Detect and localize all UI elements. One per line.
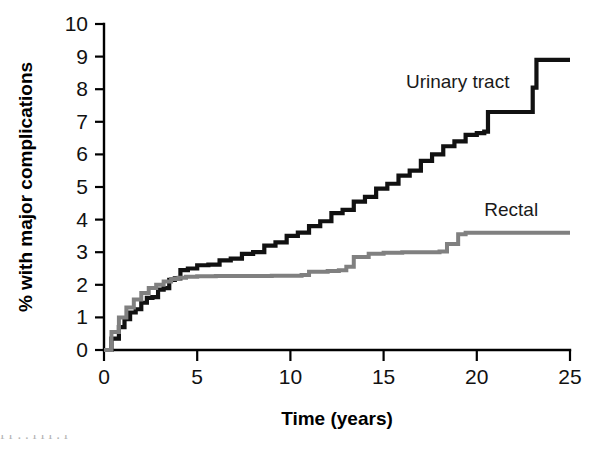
chart-background <box>0 0 607 449</box>
y-tick-label: 5 <box>76 175 88 198</box>
chart-figure: 012345678910 0510152025 % with major com… <box>0 0 607 449</box>
series-label-rectal: Rectal <box>484 199 538 220</box>
y-tick-label: 6 <box>76 142 88 165</box>
x-tick-label: 20 <box>465 365 488 388</box>
x-axis-title: Time (years) <box>281 408 393 429</box>
series-label-urinary-tract: Urinary tract <box>406 71 510 92</box>
x-tick-label: 5 <box>191 365 203 388</box>
y-tick-label: 3 <box>76 240 88 263</box>
y-tick-label: 9 <box>76 45 88 68</box>
scan-artifact-text: f r . . l l l . l <box>0 435 68 443</box>
y-tick-label: 2 <box>76 273 88 296</box>
y-tick-label: 4 <box>76 208 88 231</box>
y-tick-label: 1 <box>76 305 88 328</box>
y-tick-label: 8 <box>76 77 88 100</box>
x-tick-label: 0 <box>98 365 110 388</box>
scan-artifact: f r . . l l l . l <box>0 435 607 449</box>
x-tick-label: 25 <box>558 365 581 388</box>
y-tick-label: 10 <box>65 12 88 35</box>
y-axis-title: % with major complications <box>15 62 36 312</box>
y-tick-label: 7 <box>76 110 88 133</box>
line-chart: 012345678910 0510152025 % with major com… <box>0 0 607 449</box>
y-tick-label: 0 <box>76 338 88 361</box>
x-tick-label: 15 <box>372 365 395 388</box>
x-tick-label: 10 <box>279 365 302 388</box>
